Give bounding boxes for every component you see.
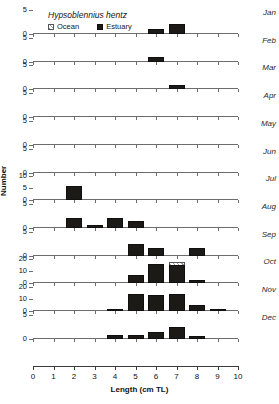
y-tick-label: 20	[19, 283, 27, 291]
x-tick	[74, 89, 75, 92]
month-label: Mar	[262, 63, 276, 72]
x-axis-tick	[74, 366, 75, 370]
y-tick	[29, 38, 33, 39]
y-tick-label: 5	[23, 228, 27, 236]
x-tick	[238, 62, 239, 65]
y-tick	[29, 299, 33, 300]
x-tick-label: 9	[215, 372, 219, 381]
y-tick	[29, 228, 33, 229]
x-tick	[156, 256, 157, 259]
x-tick	[54, 339, 55, 342]
x-tick	[197, 145, 198, 148]
bar-estuary	[107, 309, 123, 311]
x-tick	[115, 339, 116, 342]
month-panel-feb: 05Feb	[33, 38, 238, 62]
x-tick	[95, 200, 96, 203]
month-label: Feb	[262, 36, 276, 45]
x-tick	[238, 256, 239, 259]
bar-estuary	[210, 309, 226, 311]
x-tick-label: 10	[234, 372, 243, 381]
x-tick	[238, 339, 239, 342]
x-axis-tick	[95, 366, 96, 370]
y-tick	[29, 62, 33, 63]
y-tick-label: 5	[23, 6, 27, 14]
x-tick	[115, 283, 116, 286]
x-tick	[74, 173, 75, 176]
x-tick	[33, 34, 34, 37]
month-label: Oct	[264, 257, 276, 266]
x-tick	[197, 256, 198, 259]
y-tick-label: 10	[19, 267, 27, 275]
x-tick	[74, 256, 75, 259]
x-tick	[177, 283, 178, 286]
x-tick	[74, 283, 75, 286]
plot-area: 05	[33, 10, 238, 34]
x-tick	[238, 200, 239, 203]
y-tick	[29, 232, 33, 233]
x-tick	[238, 89, 239, 92]
x-tick	[74, 34, 75, 37]
x-tick	[33, 173, 34, 176]
y-tick	[29, 173, 33, 174]
bar-estuary	[169, 327, 185, 339]
x-axis: 012345678910	[33, 366, 238, 386]
x-axis-tick	[115, 366, 116, 370]
x-tick	[197, 283, 198, 286]
x-tick	[74, 62, 75, 65]
x-tick	[136, 89, 137, 92]
x-tick	[136, 339, 137, 342]
x-tick	[197, 311, 198, 314]
month-panel-apr: 05Apr	[33, 93, 238, 117]
plot-area: 01020	[33, 259, 238, 283]
x-tick	[54, 311, 55, 314]
x-tick	[218, 62, 219, 65]
month-label: Apr	[264, 91, 276, 100]
x-tick	[197, 89, 198, 92]
x-tick	[177, 200, 178, 203]
y-tick-label: 5	[23, 200, 27, 208]
month-label: Aug	[262, 202, 276, 211]
x-tick	[218, 339, 219, 342]
y-tick	[29, 10, 33, 11]
bar-estuary	[148, 295, 164, 311]
x-tick	[74, 228, 75, 231]
plot-area: 05	[33, 149, 238, 173]
month-panel-oct: 01020Oct	[33, 259, 238, 283]
y-tick-label: 10	[19, 295, 27, 303]
plot-area: 0510	[33, 176, 238, 200]
x-tick	[218, 34, 219, 37]
x-tick	[218, 228, 219, 231]
bar-estuary	[148, 57, 164, 62]
y-tick	[29, 256, 33, 257]
y-tick-label: 5	[23, 117, 27, 125]
x-tick	[115, 34, 116, 37]
y-tick	[29, 149, 33, 150]
x-tick	[115, 256, 116, 259]
x-tick	[33, 200, 34, 203]
bar-estuary	[66, 186, 82, 200]
y-tick-label: 5	[23, 311, 27, 319]
x-tick	[74, 339, 75, 342]
y-tick	[29, 89, 33, 90]
x-tick	[115, 228, 116, 231]
x-axis-tick	[136, 366, 137, 370]
x-tick	[54, 283, 55, 286]
y-tick	[29, 65, 33, 66]
x-tick	[33, 256, 34, 259]
x-tick	[177, 228, 178, 231]
bar-estuary	[148, 248, 164, 256]
x-tick	[95, 173, 96, 176]
x-tick	[156, 145, 157, 148]
y-tick	[29, 34, 33, 35]
month-label: Nov	[262, 285, 276, 294]
x-tick	[95, 339, 96, 342]
month-label: Jun	[263, 147, 276, 156]
y-tick	[29, 200, 33, 201]
x-tick	[218, 200, 219, 203]
x-tick	[115, 117, 116, 120]
x-tick	[95, 311, 96, 314]
x-tick	[136, 311, 137, 314]
plot-area: 01020	[33, 287, 238, 311]
month-panel-jul: 0510Jul	[33, 176, 238, 200]
x-tick	[177, 256, 178, 259]
